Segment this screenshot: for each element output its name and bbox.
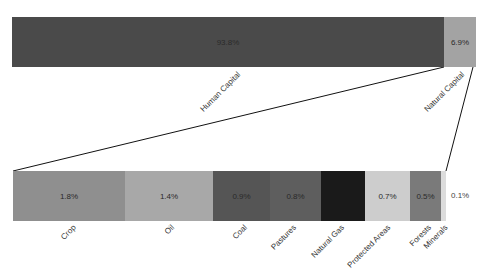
bar-pastures: 0.8% [270,171,321,221]
value-label-protected-areas: 0.7% [378,192,396,201]
bar-coal: 0.9% [213,171,270,221]
bar-human-capital: 93.8% [12,17,444,67]
value-label-natural-capital: 6.9% [451,38,469,47]
value-label-oil: 1.4% [160,192,178,201]
bar-minerals [441,171,446,221]
bar-natural-gas [321,171,365,221]
bar-oil: 1.4% [125,171,213,221]
bar-natural-capital: 6.9% [444,17,476,67]
value-label-minerals: 0.1% [451,191,469,200]
value-label-pastures: 0.8% [286,192,304,201]
bar-forests: 0.5% [410,171,441,221]
value-label-forests: 0.5% [416,192,434,201]
value-label-human-capital: 93.8% [217,38,240,47]
value-label-crop: 1.8% [60,192,78,201]
bar-protected-areas: 0.7% [365,171,410,221]
bar-crop: 1.8% [13,171,125,221]
value-label-coal: 0.9% [232,192,250,201]
